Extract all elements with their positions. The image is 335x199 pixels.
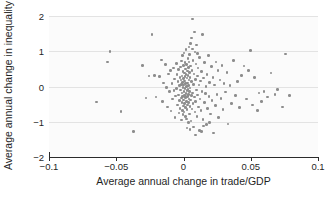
data-point	[192, 83, 195, 86]
data-point	[155, 96, 158, 99]
data-point	[192, 126, 195, 129]
data-point	[200, 130, 203, 133]
data-point	[205, 85, 208, 88]
data-point	[175, 87, 178, 90]
data-point	[270, 72, 273, 75]
data-point	[194, 78, 197, 81]
data-point	[194, 111, 197, 114]
y-axis-tick-label: −2	[33, 152, 44, 163]
data-point	[205, 123, 208, 126]
data-point	[189, 128, 192, 131]
data-point	[186, 108, 189, 111]
data-point	[281, 106, 284, 109]
data-point	[190, 37, 193, 40]
data-point	[206, 73, 209, 76]
data-point	[172, 67, 175, 70]
data-point	[195, 89, 198, 92]
data-point	[145, 97, 148, 100]
data-point	[171, 98, 174, 101]
data-point	[219, 79, 222, 82]
data-point	[95, 101, 98, 104]
data-point	[176, 73, 179, 76]
data-point	[215, 61, 218, 64]
gridline	[49, 16, 318, 17]
data-point	[185, 118, 188, 121]
data-point	[185, 48, 188, 51]
data-point	[196, 75, 199, 78]
scatter-plot-figure: −0.1−0.0500.050.1 210−1−2 Average annual…	[0, 0, 335, 199]
data-point	[169, 69, 172, 72]
data-point	[191, 108, 194, 111]
data-point	[238, 106, 241, 109]
x-axis-tick-label: −0.1	[40, 161, 59, 172]
data-point	[201, 90, 204, 93]
data-point	[206, 107, 209, 110]
data-point	[170, 110, 173, 113]
data-point	[196, 52, 199, 55]
data-point	[186, 127, 189, 130]
y-axis-tick-label: −1	[33, 116, 44, 127]
data-point	[158, 75, 161, 78]
data-point	[141, 64, 144, 67]
plot-area	[49, 16, 318, 157]
data-point	[224, 91, 227, 94]
x-axis-tick-label: −0.05	[104, 161, 128, 172]
data-point	[191, 18, 194, 21]
data-point	[204, 92, 207, 95]
data-point	[173, 78, 176, 81]
x-axis-tick-label: 0	[181, 161, 186, 172]
data-point	[187, 101, 190, 104]
data-point	[183, 111, 186, 114]
data-point	[188, 113, 191, 116]
data-point	[212, 76, 215, 79]
data-point	[217, 69, 220, 72]
data-point	[191, 92, 194, 95]
data-point	[198, 56, 201, 59]
y-axis-tick-label: 0	[39, 81, 44, 92]
data-point	[173, 89, 176, 92]
data-point	[177, 68, 180, 71]
data-point	[189, 65, 192, 68]
data-point	[284, 53, 287, 56]
data-point	[161, 100, 164, 103]
data-point	[223, 82, 226, 85]
data-point	[200, 70, 203, 73]
data-point	[167, 73, 170, 76]
data-point	[196, 94, 199, 97]
x-axis-tick-label: 0.05	[242, 161, 261, 172]
data-point	[191, 69, 194, 72]
data-point	[216, 93, 219, 96]
data-point	[263, 90, 266, 93]
data-point	[253, 76, 256, 79]
data-point	[106, 61, 109, 64]
data-point	[191, 48, 194, 51]
data-point	[211, 99, 214, 102]
data-point	[199, 80, 202, 83]
data-point	[162, 82, 165, 85]
data-point	[168, 90, 171, 93]
data-point	[203, 61, 206, 64]
data-point	[260, 100, 263, 103]
data-point	[193, 73, 196, 76]
data-point	[182, 64, 185, 67]
data-point	[274, 93, 277, 96]
data-point	[188, 46, 191, 49]
data-point	[288, 94, 291, 97]
y-axis-tick-label: 1	[39, 46, 44, 57]
data-point	[202, 118, 205, 121]
data-point	[132, 130, 135, 133]
data-point	[175, 62, 178, 65]
data-point	[188, 61, 191, 64]
data-point	[276, 88, 279, 91]
data-point	[187, 57, 190, 60]
data-point	[217, 116, 220, 119]
data-point	[171, 82, 174, 85]
data-point	[230, 102, 233, 105]
data-point	[193, 31, 196, 34]
data-point	[221, 64, 224, 67]
data-point	[208, 121, 211, 124]
data-point	[197, 67, 200, 70]
data-point	[177, 94, 180, 97]
data-point	[193, 96, 196, 99]
data-point	[189, 99, 192, 102]
